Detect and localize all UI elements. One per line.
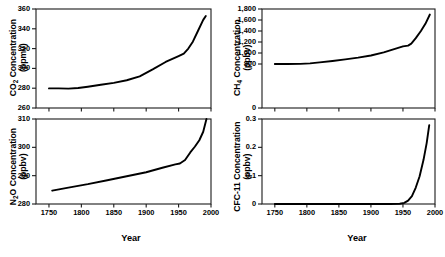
n2o-panel: 280290300310175018001850190019502000 <box>36 118 212 218</box>
ch4-ytick-label: 1,800 <box>238 4 257 13</box>
cfc11-plot-frame <box>262 119 435 204</box>
cfc11-ylabel: CFC-11 Concentration (ppbv) <box>232 122 251 212</box>
co2-ytick-label: 360 <box>18 4 30 13</box>
ch4-ytick-label: 800 <box>244 59 256 68</box>
ch4-chart: 08001,0001,2001,4001,6001,800 <box>262 8 436 110</box>
co2-ytick-label: 320 <box>18 44 30 53</box>
ch4-panel: 08001,0001,2001,4001,6001,800 <box>262 8 436 110</box>
ch4-ytick-label: 0 <box>252 103 256 112</box>
cfc11-ytick-label: 0.1 <box>246 171 256 180</box>
n2o-ytick-label: 310 <box>18 114 30 123</box>
cfc11-ytick-label: 0 <box>252 199 256 208</box>
cfc11-chart: 00.10.20.3175018001850190019502000 <box>262 118 436 218</box>
ch4-ytick-label: 1,600 <box>238 15 257 24</box>
n2o-ytick-label: 290 <box>18 171 30 180</box>
n2o-ylabel: N2O Concentration (ppbv) <box>9 128 28 205</box>
cfc11-xtick-label: 1850 <box>331 208 347 217</box>
cfc11-ytick-label: 0.2 <box>246 142 256 151</box>
cfc11-xtick-label: 1900 <box>363 208 379 217</box>
cfc11-ylabel-line1: CFC-11 Concentration <box>231 122 241 212</box>
co2-panel: 260280300320340360 <box>36 8 212 110</box>
ch4-ytick-label: 1,400 <box>238 26 257 35</box>
n2o-xtick-label: 1850 <box>106 208 122 217</box>
cfc11-xlabel: Year <box>282 233 432 243</box>
co2-ytick-label: 280 <box>18 83 30 92</box>
n2o-xtick-label: 1750 <box>41 208 57 217</box>
greenhouse-gas-concentration-figure: CO2 Concentration (ppmv) 260280300320340… <box>0 0 445 257</box>
cfc11-panel: 00.10.20.3175018001850190019502000 <box>262 118 436 218</box>
n2o-xtick-label: 1900 <box>138 208 154 217</box>
n2o-xtick-label: 2000 <box>203 208 219 217</box>
ch4-ytick-label: 1,200 <box>238 37 257 46</box>
n2o-xtick-label: 1950 <box>170 208 186 217</box>
ch4-ytick-label: 1,000 <box>238 48 257 57</box>
n2o-ytick-label: 280 <box>18 199 30 208</box>
n2o-plot-frame <box>36 119 211 204</box>
co2-chart: 260280300320340360 <box>36 8 212 110</box>
cfc11-xtick-label: 1750 <box>267 208 283 217</box>
co2-ytick-label: 300 <box>18 63 30 72</box>
cfc11-xtick-label: 2000 <box>427 208 443 217</box>
cfc11-xtick-label: 1800 <box>299 208 315 217</box>
co2-plot-frame <box>36 9 211 108</box>
co2-ytick-label: 340 <box>18 24 30 33</box>
co2-ytick-label: 260 <box>18 103 30 112</box>
n2o-xtick-label: 1800 <box>73 208 89 217</box>
n2o-ytick-label: 300 <box>18 142 30 151</box>
cfc11-ytick-label: 0.3 <box>246 114 256 123</box>
cfc11-xtick-label: 1950 <box>395 208 411 217</box>
n2o-chart: 280290300310175018001850190019502000 <box>36 118 212 218</box>
n2o-xlabel: Year <box>56 233 206 243</box>
